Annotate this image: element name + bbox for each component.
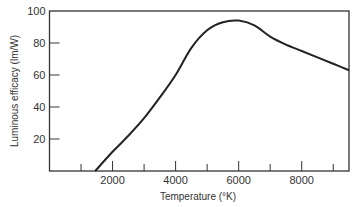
x-tick-label: 2000 [100, 174, 124, 186]
plot-border [50, 11, 350, 171]
y-tick-label: 20 [33, 133, 45, 145]
y-tick-label: 80 [33, 37, 45, 49]
x-axis-label: Temperature (°K) [160, 191, 236, 202]
y-axis-ticks: 20406080100 [27, 5, 59, 145]
y-tick-label: 60 [33, 69, 45, 81]
efficacy-curve [95, 20, 349, 171]
y-axis-label: Luminous efficacy (lm/W) [9, 35, 20, 147]
y-tick-label: 100 [27, 5, 45, 17]
plot-frame [50, 11, 350, 171]
y-tick-label: 40 [33, 101, 45, 113]
x-axis-ticks: 2000400060008000 [81, 161, 333, 186]
x-tick-label: 8000 [289, 174, 313, 186]
chart: 20406080100 2000400060008000 Temperature… [0, 0, 354, 207]
x-tick-label: 4000 [163, 174, 187, 186]
x-tick-label: 6000 [226, 174, 250, 186]
